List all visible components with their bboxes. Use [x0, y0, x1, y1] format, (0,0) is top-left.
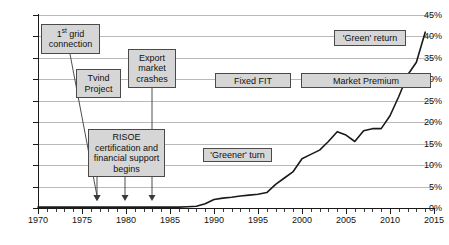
gridline-5 [38, 187, 434, 188]
callout-risoe-line2: certification and [95, 143, 158, 153]
x-tick-1970 [38, 209, 39, 214]
gridline-35 [38, 58, 434, 59]
callout-risoe-line1: RISOE [112, 132, 140, 142]
band-greener-turn[interactable]: 'Greener' turn [203, 148, 272, 162]
callout-tvind-project[interactable]: Tvind Project [76, 69, 121, 98]
y-tick-mark-20 [33, 122, 38, 123]
y-tick-mark-40 [33, 36, 38, 37]
callout-export-line3: crashes [136, 74, 168, 84]
x-tick-1973 [64, 209, 65, 212]
callout-first-grid-connection-word: grid [67, 29, 85, 39]
y-tick-mark-15 [33, 144, 38, 145]
x-tick-2014 [425, 209, 426, 212]
x-tick-1995 [258, 209, 259, 214]
y-tick-label-5: 5% [410, 183, 442, 192]
x-tick-2003 [328, 209, 329, 212]
band-greener-turn-label: 'Greener' turn [210, 150, 264, 160]
y-tick-label-25: 25% [410, 97, 442, 106]
callout-risoe[interactable]: RISOE certification and financial suppor… [88, 129, 165, 177]
band-market-premium-label: Market Premium [333, 76, 399, 86]
y-tick-label-20: 20% [410, 118, 442, 127]
x-tick-2001 [311, 209, 312, 212]
callout-tvind-line2: Project [84, 84, 112, 94]
callout-export-market-crashes[interactable]: Export market crashes [128, 49, 176, 88]
x-tick-label-2010: 2010 [370, 215, 410, 225]
y-tick-label-15: 15% [410, 140, 442, 149]
x-tick-1999 [293, 209, 294, 212]
gridline-20 [38, 122, 434, 123]
y-tick-label-45: 45% [410, 11, 442, 20]
x-tick-1987 [188, 209, 189, 212]
x-axis [38, 208, 435, 209]
x-tick-1976 [91, 209, 92, 212]
y-tick-mark-30 [33, 79, 38, 80]
x-tick-label-1975: 1975 [62, 215, 102, 225]
x-tick-2011 [399, 209, 400, 212]
y-tick-label-10: 10% [410, 161, 442, 170]
x-tick-1993 [240, 209, 241, 212]
x-tick-1988 [196, 209, 197, 212]
x-tick-2010 [390, 209, 391, 214]
band-market-premium[interactable]: Market Premium [301, 73, 431, 88]
x-tick-label-1995: 1995 [238, 215, 278, 225]
x-tick-1984 [161, 209, 162, 212]
x-tick-label-1985: 1985 [150, 215, 190, 225]
y-tick-mark-25 [33, 101, 38, 102]
x-tick-2000 [302, 209, 303, 214]
x-tick-2004 [337, 209, 338, 212]
x-tick-2005 [346, 209, 347, 214]
x-tick-2013 [416, 209, 417, 212]
band-green-return-label: 'Green' return [343, 33, 397, 43]
x-tick-2008 [372, 209, 373, 212]
x-tick-label-1980: 1980 [106, 215, 146, 225]
x-tick-1990 [214, 209, 215, 214]
x-tick-1985 [170, 209, 171, 214]
x-tick-1971 [47, 209, 48, 212]
y-tick-label-40: 40% [410, 32, 442, 41]
band-fixed-fit[interactable]: Fixed FIT [215, 73, 291, 88]
callout-export-line1: Export [139, 53, 165, 63]
x-tick-label-1990: 1990 [194, 215, 234, 225]
x-tick-1978 [108, 209, 109, 212]
gridline-25 [38, 101, 434, 102]
x-tick-1972 [56, 209, 57, 212]
y-tick-mark-35 [33, 58, 38, 59]
x-tick-label-2005: 2005 [326, 215, 366, 225]
callout-first-grid-connection-line2: connection [49, 39, 93, 49]
x-tick-2015 [434, 209, 435, 214]
x-tick-1977 [100, 209, 101, 212]
y-tick-label-35: 35% [410, 54, 442, 63]
callout-first-grid-connection[interactable]: 1st grid connection [41, 24, 100, 54]
x-tick-1996 [267, 209, 268, 212]
x-tick-1986 [179, 209, 180, 212]
x-tick-2002 [320, 209, 321, 212]
callout-risoe-line4: begins [113, 164, 140, 174]
x-tick-1974 [73, 209, 74, 212]
callout-risoe-line3: financial support [94, 153, 160, 163]
x-tick-1980 [126, 209, 127, 214]
x-tick-2012 [408, 209, 409, 212]
x-tick-1983 [152, 209, 153, 212]
gridline-45 [38, 15, 434, 16]
x-tick-1979 [117, 209, 118, 212]
x-tick-1989 [205, 209, 206, 212]
x-tick-2007 [364, 209, 365, 212]
x-tick-1997 [276, 209, 277, 212]
x-tick-2006 [355, 209, 356, 212]
x-tick-1991 [223, 209, 224, 212]
x-tick-1998 [284, 209, 285, 212]
x-tick-1992 [232, 209, 233, 212]
band-green-return[interactable]: 'Green' return [334, 30, 406, 46]
x-tick-label-1970: 1970 [18, 215, 58, 225]
band-fixed-fit-label: Fixed FIT [234, 76, 272, 86]
callout-tvind-line1: Tvind [87, 73, 109, 83]
y-tick-mark-45 [33, 15, 38, 16]
x-tick-label-2000: 2000 [282, 215, 322, 225]
x-tick-1982 [144, 209, 145, 212]
callout-export-line2: market [138, 63, 166, 73]
x-tick-1981 [135, 209, 136, 212]
y-tick-mark-5 [33, 187, 38, 188]
x-tick-1975 [82, 209, 83, 214]
y-tick-mark-10 [33, 165, 38, 166]
